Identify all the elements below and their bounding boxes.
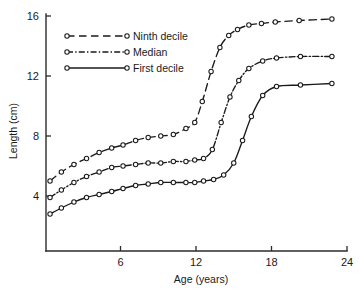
data-point-marker: [72, 180, 76, 184]
data-series-group: [48, 17, 334, 216]
data-point-marker: [109, 165, 113, 169]
data-point-marker: [48, 179, 52, 183]
data-point-marker: [159, 134, 163, 138]
x-tick-label: 12: [190, 256, 202, 268]
legend-label: First decile: [133, 62, 184, 74]
data-point-marker: [97, 150, 101, 154]
data-point-marker: [121, 143, 125, 147]
data-point-marker: [146, 135, 150, 139]
data-point-marker: [249, 114, 253, 118]
data-point-marker: [159, 180, 163, 184]
x-axis-title: Age (years): [174, 273, 228, 285]
data-point-marker: [227, 33, 231, 37]
y-tick-label: 8: [33, 130, 39, 142]
data-point-marker: [297, 18, 301, 22]
data-point-marker: [193, 120, 197, 124]
legend-marker-start: [65, 34, 69, 38]
data-point-marker: [193, 158, 197, 162]
chart-svg: 481216 6121824 Ninth decileMedianFirst d…: [0, 0, 360, 291]
data-point-marker: [48, 195, 52, 199]
data-point-marker: [109, 189, 113, 193]
chart-legend: Ninth decileMedianFirst decile: [65, 30, 188, 74]
data-point-marker: [201, 156, 205, 160]
data-point-marker: [193, 180, 197, 184]
x-axis-ticks: 6121824: [117, 246, 353, 268]
data-point-marker: [274, 84, 278, 88]
data-point-marker: [235, 27, 239, 31]
series-first-decile: [48, 81, 334, 216]
data-point-marker: [298, 54, 302, 58]
data-point-marker: [274, 56, 278, 60]
data-point-marker: [121, 164, 125, 168]
legend-label: Median: [133, 46, 168, 58]
legend-marker-start: [65, 66, 69, 70]
x-tick-label: 6: [117, 256, 123, 268]
y-tick-label: 12: [27, 70, 39, 82]
series-line: [50, 84, 332, 215]
data-point-marker: [146, 182, 150, 186]
data-point-marker: [298, 83, 302, 87]
legend-item-ninth-decile: Ninth decile: [65, 30, 188, 42]
data-point-marker: [330, 17, 334, 21]
data-point-marker: [59, 206, 63, 210]
plot-axes: [46, 14, 347, 251]
legend-marker-end: [125, 50, 129, 54]
legend-label: Ninth decile: [133, 30, 188, 42]
data-point-marker: [97, 192, 101, 196]
y-axis-ticks: 481216: [27, 10, 51, 202]
data-point-marker: [200, 99, 204, 103]
data-point-marker: [184, 159, 188, 163]
x-tick-label: 24: [341, 256, 353, 268]
data-point-marker: [210, 147, 214, 151]
data-point-marker: [211, 177, 215, 181]
data-point-marker: [259, 21, 263, 25]
data-point-marker: [171, 132, 175, 136]
data-point-marker: [232, 161, 236, 165]
series-line: [50, 56, 332, 197]
data-point-marker: [59, 170, 63, 174]
legend-marker-end: [125, 66, 129, 70]
y-axis-title: Length (cm): [7, 103, 19, 159]
y-tick-label: 16: [27, 10, 39, 22]
data-point-marker: [184, 126, 188, 130]
chart-container: 481216 6121824 Ninth decileMedianFirst d…: [0, 0, 360, 291]
data-point-marker: [330, 54, 334, 58]
data-point-marker: [133, 183, 137, 187]
data-point-marker: [48, 212, 52, 216]
data-point-marker: [84, 174, 88, 178]
data-point-marker: [97, 170, 101, 174]
y-tick-label: 4: [33, 190, 39, 202]
series-line: [50, 19, 332, 181]
legend-item-first-decile: First decile: [65, 62, 184, 74]
data-point-marker: [59, 188, 63, 192]
data-point-marker: [218, 45, 222, 49]
data-point-marker: [260, 59, 264, 63]
data-point-marker: [209, 69, 213, 73]
data-point-marker: [133, 162, 137, 166]
data-point-marker: [201, 179, 205, 183]
data-point-marker: [247, 66, 251, 70]
data-point-marker: [159, 161, 163, 165]
data-point-marker: [247, 23, 251, 27]
series-median: [48, 54, 334, 199]
data-point-marker: [330, 81, 334, 85]
data-point-marker: [221, 173, 225, 177]
data-point-marker: [72, 200, 76, 204]
data-point-marker: [228, 95, 232, 99]
data-point-marker: [237, 78, 241, 82]
data-point-marker: [133, 138, 137, 142]
data-point-marker: [109, 146, 113, 150]
data-point-marker: [84, 156, 88, 160]
series-ninth-decile: [48, 17, 334, 183]
data-point-marker: [84, 195, 88, 199]
data-point-marker: [219, 120, 223, 124]
data-point-marker: [184, 180, 188, 184]
data-point-marker: [273, 20, 277, 24]
data-point-marker: [260, 93, 264, 97]
data-point-marker: [240, 138, 244, 142]
data-point-marker: [171, 180, 175, 184]
data-point-marker: [171, 159, 175, 163]
legend-item-median: Median: [65, 46, 168, 58]
legend-marker-start: [65, 50, 69, 54]
x-tick-label: 18: [265, 256, 277, 268]
